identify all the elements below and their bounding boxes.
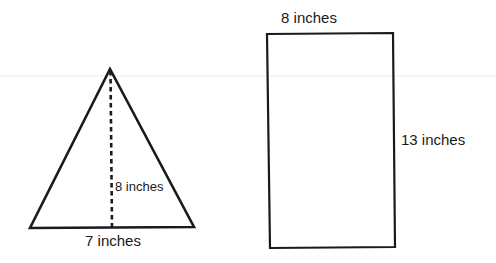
diagram-canvas: 8 inches 7 inches 8 inches 13 inches bbox=[0, 0, 496, 263]
triangle-height-label: 8 inches bbox=[115, 179, 164, 194]
rectangle-height-label: 13 inches bbox=[401, 131, 465, 148]
triangle-height-dashed-line bbox=[111, 71, 113, 227]
rectangle-shape bbox=[267, 33, 395, 248]
triangle-base-label: 7 inches bbox=[85, 232, 141, 249]
rectangle-width-label: 8 inches bbox=[281, 9, 337, 26]
triangle-shape bbox=[30, 69, 194, 228]
triangle-figure: 8 inches 7 inches bbox=[30, 69, 194, 249]
rectangle-figure: 8 inches 13 inches bbox=[267, 9, 465, 248]
